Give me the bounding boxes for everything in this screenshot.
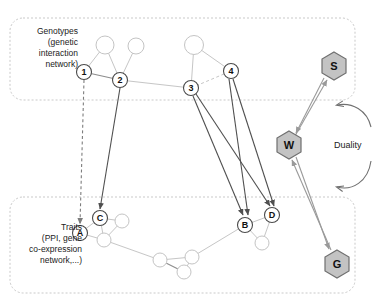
genotype-node-unlabeled	[128, 38, 144, 54]
trait-node-unlabeled	[115, 214, 129, 228]
duality-curve-top	[337, 104, 371, 127]
hexagon-G-label: G	[333, 258, 342, 270]
trait-node-unlabeled	[255, 236, 269, 250]
genotype-node-3-label: 3	[188, 83, 193, 93]
trait-node-unlabeled	[153, 253, 167, 267]
trait-node-B-label: B	[242, 220, 249, 230]
causal-link-2-to-C	[100, 88, 120, 209]
trait-node-unlabeled	[97, 233, 111, 247]
trait-node-unlabeled	[177, 265, 191, 279]
traits-panel-caption: Traits (PPI, gene co-expression network,…	[6, 222, 82, 266]
hexagon-W-label: W	[284, 139, 295, 151]
figure-root: 1 2 3 4	[0, 0, 382, 301]
genotype-node-1-label: 1	[81, 67, 86, 77]
hexagon-S-label: S	[330, 60, 337, 72]
trait-node-D-label: D	[269, 210, 276, 220]
genotype-node-4-label: 4	[228, 66, 233, 76]
duality-curve-bottom	[337, 161, 371, 188]
trait-node-unlabeled	[185, 250, 199, 264]
genotype-node-unlabeled	[185, 36, 204, 55]
duality-label: Duality	[334, 140, 362, 150]
genotype-node-unlabeled	[96, 36, 114, 54]
genotype-node-2-label: 2	[117, 75, 122, 85]
trait-node-C-label: C	[97, 213, 104, 223]
genotypes-panel-caption: Genotypes (genetic interaction network)	[14, 26, 78, 70]
